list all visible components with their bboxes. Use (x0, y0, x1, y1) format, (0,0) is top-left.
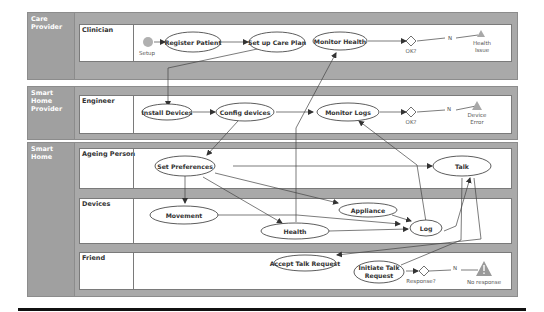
node-appliance[interactable]: Appliance (339, 203, 397, 217)
bottom-rule (18, 308, 526, 311)
svg-text:Health: Health (283, 228, 306, 235)
svg-text:Appliance: Appliance (351, 207, 385, 215)
no-label: N (447, 106, 451, 112)
device-error-label-2: Error (470, 119, 484, 125)
svg-text:Request: Request (365, 272, 394, 280)
node-set-up-care-plan[interactable]: Set up Care Plan (248, 32, 306, 52)
node-accept-talk-request[interactable]: Accept Talk Request (270, 255, 341, 271)
no-response-label: No response (467, 279, 502, 286)
node-config-devices[interactable]: Config devices (216, 103, 274, 121)
node-monitor-health[interactable]: Monitor Health (313, 32, 367, 50)
health-issue-label: Health (473, 40, 492, 46)
decision-ok-1: OK? (406, 36, 417, 54)
node-movement[interactable]: Movement (150, 206, 218, 224)
node-talk[interactable]: Talk (433, 156, 491, 176)
svg-text:OK?: OK? (406, 119, 417, 125)
warning-icon (476, 261, 492, 276)
svg-text:Response?: Response? (406, 278, 435, 285)
svg-text:Accept Talk Request: Accept Talk Request (270, 260, 341, 268)
svg-text:Monitor Health: Monitor Health (314, 38, 366, 45)
node-monitor-logs[interactable]: Monitor Logs (317, 103, 379, 121)
no-label: N (448, 35, 452, 41)
warning-icon (477, 30, 485, 37)
diamond-icon (406, 36, 416, 46)
decision-response: Response? (406, 266, 435, 285)
warning-icon (472, 101, 482, 110)
node-set-preferences[interactable]: Set Preferences (155, 156, 215, 176)
flow-diagram: Setup Register Patient Set up Care Plan … (0, 0, 544, 312)
node-install-devices[interactable]: Install Devices (142, 104, 193, 120)
svg-text:Set up Care Plan: Set up Care Plan (248, 39, 306, 47)
svg-text:Install Devices: Install Devices (142, 109, 193, 116)
node-register-patient[interactable]: Register Patient (165, 32, 222, 52)
svg-text:Movement: Movement (166, 212, 203, 219)
svg-text:Set Preferences: Set Preferences (157, 163, 213, 170)
setup-label: Setup (139, 50, 156, 57)
svg-text:OK?: OK? (406, 48, 417, 54)
svg-text:Talk: Talk (455, 163, 470, 170)
device-error-label: Device (468, 112, 487, 118)
svg-text:Config devices: Config devices (220, 109, 271, 117)
diamond-icon (406, 107, 416, 117)
decision-ok-2: OK? (406, 107, 417, 125)
svg-text:Initiate Talk: Initiate Talk (358, 264, 400, 271)
node-initiate-talk-request[interactable]: Initiate Talk Request (354, 261, 404, 283)
health-issue-label-2: Issue (475, 47, 490, 53)
svg-text:Monitor Logs: Monitor Logs (325, 109, 371, 117)
svg-text:Log: Log (420, 225, 433, 233)
start-node-icon (143, 37, 153, 47)
diamond-icon (419, 266, 429, 276)
no-label: N (453, 265, 457, 271)
svg-text:Register Patient: Register Patient (165, 39, 222, 47)
node-log[interactable]: Log (410, 220, 442, 236)
node-health[interactable]: Health (261, 223, 329, 239)
